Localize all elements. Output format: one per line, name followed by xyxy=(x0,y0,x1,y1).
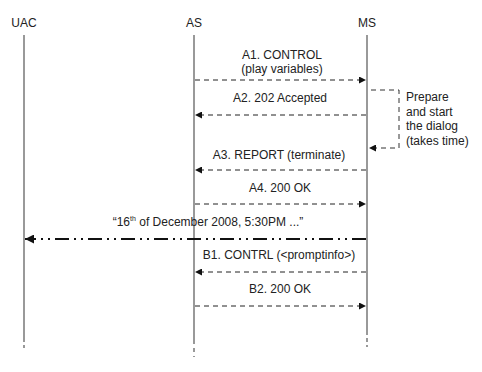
label-media-stream: “16th of December 2008, 5:30PM ...” xyxy=(113,215,304,229)
arrow-self-prepare xyxy=(369,90,399,148)
actor-uac: UAC xyxy=(11,16,36,30)
actor-ms: MS xyxy=(358,16,376,30)
note-prepare-dialog: Prepare and start the dialog (takes time… xyxy=(406,90,469,148)
label-a3: A3. REPORT (terminate) xyxy=(213,148,345,162)
note-line: and start xyxy=(406,105,469,120)
note-line: (takes time) xyxy=(406,134,469,149)
label-b1: B1. CONTRL (<promptinfo>) xyxy=(203,248,355,262)
label-a4: A4. 200 OK xyxy=(249,181,311,195)
label-a1-line2: (play variables) xyxy=(241,62,322,76)
label-a2: A2. 202 Accepted xyxy=(233,91,327,105)
note-line: Prepare xyxy=(406,90,469,105)
note-line: the dialog xyxy=(406,119,469,134)
actor-as: AS xyxy=(186,16,202,30)
label-a1-line1: A1. CONTROL xyxy=(241,48,322,62)
label-a1: A1. CONTROL (play variables) xyxy=(241,48,322,76)
label-b2: B2. 200 OK xyxy=(249,282,311,296)
